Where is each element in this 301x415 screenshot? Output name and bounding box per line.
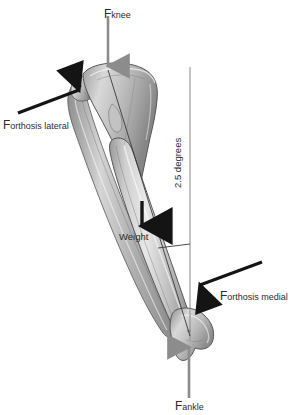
angle-label: 2.5 degrees <box>172 138 183 188</box>
f-orthosis-lateral-label: Forthosis lateral <box>3 115 69 133</box>
tibia-force-diagram: Fknee Forthosis lateral Forthosis medial… <box>0 0 301 415</box>
f-ankle-label: Fankle <box>175 396 204 414</box>
f-ankle-label-sub: ankle <box>182 402 204 412</box>
f-orthosis-lateral-label-sub: orthosis lateral <box>10 121 69 131</box>
f-orthosis-medial-label: Forthosis medial <box>220 286 288 304</box>
tibia-bone <box>83 63 214 360</box>
f-knee-label-sub: knee <box>111 10 131 20</box>
diagram-canvas <box>0 0 301 415</box>
f-knee-label: Fknee <box>104 4 131 22</box>
f-orthosis-medial-label-sub: orthosis medial <box>227 292 288 302</box>
f-orthosis-medial-arrow <box>200 262 262 285</box>
weight-label: Weight <box>119 231 148 242</box>
